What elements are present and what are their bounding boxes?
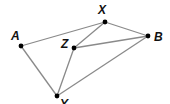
- point-x: [103, 20, 108, 25]
- point-y: [55, 94, 60, 99]
- point-z: [72, 46, 77, 51]
- edges-group: [21, 22, 148, 96]
- segment-zy: [57, 48, 74, 96]
- labels-group: AXBZY: [10, 3, 163, 104]
- nodes-group: [19, 20, 151, 99]
- point-a: [19, 44, 24, 49]
- point-label-x: X: [97, 3, 107, 17]
- point-label-y: Y: [60, 97, 69, 104]
- point-label-a: A: [10, 29, 20, 43]
- point-b: [146, 34, 151, 39]
- point-label-b: B: [154, 30, 163, 44]
- point-label-z: Z: [60, 37, 69, 51]
- segment-zb: [74, 36, 148, 48]
- segment-yb: [57, 36, 148, 96]
- segment-ay: [21, 46, 57, 96]
- geometry-diagram: AXBZY: [0, 0, 170, 104]
- segment-xb: [105, 22, 148, 36]
